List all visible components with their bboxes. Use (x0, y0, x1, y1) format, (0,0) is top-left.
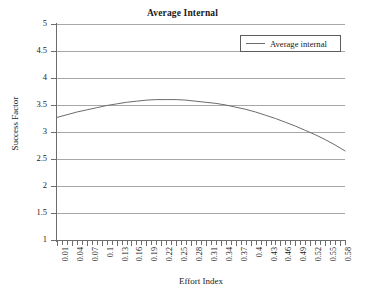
x-axis-tick-minor (231, 241, 232, 245)
x-axis-tick-minor (216, 241, 217, 245)
x-axis-tick-label: 0.43 (270, 247, 279, 261)
x-axis-tick-major (161, 241, 162, 246)
x-axis-tick-label: 0.28 (195, 247, 204, 261)
x-axis-tick-label: 0.13 (121, 247, 130, 261)
x-axis-tick-label: 0.01 (61, 247, 70, 261)
x-axis-tick-minor (320, 241, 321, 245)
x-axis-tick-minor (97, 241, 98, 245)
x-axis-tick-major (146, 241, 147, 246)
y-axis-tick (51, 186, 56, 187)
x-axis-tick-minor (77, 241, 78, 245)
x-axis-tick-minor (82, 241, 83, 245)
y-axis-title: Success Factor (10, 64, 21, 184)
x-axis-tick-minor (285, 241, 286, 245)
x-axis-tick-label: 0.31 (210, 247, 219, 261)
x-axis-tick-minor (256, 241, 257, 245)
x-axis-tick-label: 0.34 (225, 247, 234, 261)
x-axis-tick-label: 0.49 (299, 247, 308, 261)
x-axis-tick-minor (67, 241, 68, 245)
x-axis-tick-label: 0.04 (76, 247, 85, 261)
x-axis-tick-minor (136, 241, 137, 245)
x-axis-tick-major (325, 241, 326, 246)
x-axis-tick-minor (261, 241, 262, 245)
x-axis-tick-label: 0.19 (150, 247, 159, 261)
chart-container: Average Internal 54.543.532.521.51 0.010… (0, 0, 365, 297)
chart-title: Average Internal (0, 8, 365, 19)
x-axis-tick-label: 0.37 (240, 247, 249, 261)
x-axis-tick-label: 0.52 (314, 247, 323, 261)
x-axis-tick-minor (112, 241, 113, 245)
x-axis-tick-major (72, 241, 73, 246)
x-axis-tick-major (117, 241, 118, 246)
y-axis-tick-label: 3 (1, 127, 47, 136)
y-axis-tick (51, 213, 56, 214)
x-axis-tick-major (87, 241, 88, 246)
y-axis-tick-label: 1 (1, 235, 47, 244)
x-axis-tick-minor (156, 241, 157, 245)
y-axis-tick-label: 2 (1, 181, 47, 190)
x-axis-tick-minor (127, 241, 128, 245)
x-axis-tick-major (176, 241, 177, 246)
y-axis-tick (51, 159, 56, 160)
x-axis-tick-major (340, 241, 341, 246)
x-axis-tick-label: 0.46 (284, 247, 293, 261)
legend[interactable]: Average internal (240, 35, 341, 52)
x-axis-tick-minor (290, 241, 291, 245)
x-axis-tick-minor (226, 241, 227, 245)
x-axis-tick-minor (300, 241, 301, 245)
x-axis-tick-minor (211, 241, 212, 245)
x-axis-tick-minor (201, 241, 202, 245)
x-axis-tick-label: 0.22 (165, 247, 174, 261)
x-axis-tick-minor (151, 241, 152, 245)
x-axis-tick-minor (335, 241, 336, 245)
x-axis-tick-minor (330, 241, 331, 245)
x-axis-tick-major (280, 241, 281, 246)
x-axis-tick-minor (107, 241, 108, 245)
x-axis-tick-major (236, 241, 237, 246)
x-axis-tick-label: 0.16 (135, 247, 144, 261)
x-axis-tick-minor (62, 241, 63, 245)
y-axis-tick (51, 105, 56, 106)
y-axis-tick (51, 132, 56, 133)
x-axis-tick-minor (186, 241, 187, 245)
x-axis-tick-label: 0.1 (106, 247, 115, 257)
y-axis-tick-label: 4 (1, 73, 47, 82)
x-axis-tick-label: 0.4 (255, 247, 264, 257)
y-axis-tick (51, 240, 56, 241)
y-axis-tick-label: 2.5 (1, 154, 47, 163)
x-axis-tick-minor (305, 241, 306, 245)
y-axis-tick (51, 24, 56, 25)
x-axis-tick-major (57, 241, 58, 246)
x-axis-tick-minor (315, 241, 316, 245)
x-axis-tick-minor (246, 241, 247, 245)
x-axis-tick-major (310, 241, 311, 246)
x-axis-tick-major (266, 241, 267, 246)
x-axis-tick-major (191, 241, 192, 246)
x-axis-tick-label: 0.58 (344, 247, 353, 261)
x-axis-tick-minor (345, 241, 346, 245)
x-axis-tick-minor (196, 241, 197, 245)
y-axis-tick-label: 3.5 (1, 100, 47, 109)
x-axis-tick-label: 0.55 (329, 247, 338, 261)
x-axis-tick-major (295, 241, 296, 246)
legend-line-swatch-icon (246, 43, 265, 44)
x-axis-tick-label: 0.25 (180, 247, 189, 261)
y-axis-tick-label: 1.5 (1, 208, 47, 217)
x-axis-tick-minor (271, 241, 272, 245)
data-series-layer (57, 24, 345, 240)
x-axis-tick-minor (166, 241, 167, 245)
y-axis-tick-label: 4.5 (1, 46, 47, 55)
x-axis-tick-minor (181, 241, 182, 245)
x-axis-tick-minor (275, 241, 276, 245)
y-axis-tick (51, 78, 56, 79)
x-axis-tick-major (131, 241, 132, 246)
x-axis-tick-major (221, 241, 222, 246)
legend-label-average-internal: Average internal (270, 39, 327, 49)
x-axis-tick-major (206, 241, 207, 246)
y-axis-tick-label: 5 (1, 19, 47, 28)
x-axis-tick-minor (241, 241, 242, 245)
x-axis-tick-minor (141, 241, 142, 245)
x-axis-tick-minor (92, 241, 93, 245)
x-axis-tick-minor (122, 241, 123, 245)
y-axis-tick (51, 51, 56, 52)
